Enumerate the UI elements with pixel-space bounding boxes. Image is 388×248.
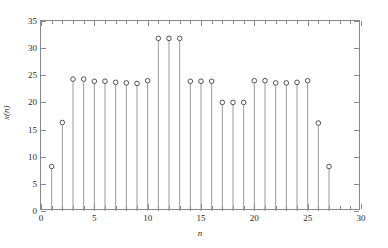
y-axis-tick-label: 30	[28, 43, 37, 53]
stem-point	[92, 79, 97, 211]
data-point-marker	[209, 79, 214, 84]
x-axis-tick-minor-top	[105, 21, 106, 24]
y-axis-tick-major-right	[354, 184, 359, 185]
stem-point	[124, 81, 129, 211]
data-point-marker	[113, 80, 118, 85]
data-point-marker	[231, 100, 236, 105]
stem-point	[273, 81, 278, 211]
data-point-marker	[135, 81, 140, 86]
x-axis-tick-major-top	[361, 21, 362, 26]
x-axis-tick-minor-top	[126, 21, 127, 24]
stem-point	[71, 77, 76, 211]
x-axis-tick-minor-top	[244, 21, 245, 24]
data-point-marker	[305, 78, 310, 83]
x-axis-tick-minor	[116, 206, 117, 209]
x-axis-tick-minor	[105, 206, 106, 209]
x-axis-tick-minor	[158, 206, 159, 209]
x-axis-tick-minor-top	[180, 21, 181, 24]
y-axis-tick-major-right	[354, 75, 359, 76]
x-axis-tick-minor-top	[84, 21, 85, 24]
y-axis-tick-major-right	[354, 211, 359, 212]
stem-point	[49, 164, 54, 211]
x-axis-tick-minor	[340, 206, 341, 209]
x-axis-tick-minor	[169, 206, 170, 209]
x-axis-tick-major	[254, 204, 255, 209]
stem-point	[113, 80, 118, 211]
data-point-marker	[188, 79, 193, 84]
data-point-marker	[220, 100, 225, 105]
x-axis-tick-minor-top	[52, 21, 53, 24]
x-axis-tick-minor	[222, 206, 223, 209]
stem-point	[209, 79, 214, 211]
stem-point	[252, 78, 257, 211]
stem-series-layer	[41, 21, 361, 211]
stem-point	[177, 36, 182, 211]
x-axis-tick-minor-top	[286, 21, 287, 24]
stem-point	[220, 100, 225, 211]
x-axis-tick-minor	[180, 206, 181, 209]
data-point-marker	[316, 121, 321, 126]
x-axis-tick-minor	[52, 206, 53, 209]
x-axis-tick-minor	[212, 206, 213, 209]
stem-point	[60, 120, 65, 211]
x-axis-tick-label: 25	[303, 213, 312, 223]
stem-point	[284, 81, 289, 211]
x-axis-tick-major	[94, 204, 95, 209]
x-axis-tick-minor	[73, 206, 74, 209]
plot-axes-box: 05101520253005101520253035	[40, 20, 360, 210]
x-axis-tick-minor-top	[318, 21, 319, 24]
data-point-marker	[81, 77, 86, 82]
y-axis-tick-major-right	[354, 102, 359, 103]
data-point-marker	[252, 78, 257, 83]
x-axis-tick-major-top	[94, 21, 95, 26]
x-axis-tick-major-top	[254, 21, 255, 26]
y-axis-tick-major	[41, 21, 46, 22]
x-axis-tick-major	[361, 204, 362, 209]
x-axis-tick-minor	[265, 206, 266, 209]
x-axis-tick-minor	[329, 206, 330, 209]
x-axis-tick-major-top	[201, 21, 202, 26]
stem-point	[263, 78, 268, 211]
y-axis-tick-major-right	[354, 48, 359, 49]
y-axis-tick-label: 10	[28, 152, 37, 162]
data-point-marker	[327, 164, 332, 169]
y-axis-tick-major-right	[354, 21, 359, 22]
stem-plot-figure: 05101520253005101520253035 n x(n)	[0, 0, 388, 248]
data-point-marker	[156, 36, 161, 41]
y-axis-tick-major	[41, 102, 46, 103]
y-axis-tick-label: 0	[33, 206, 38, 216]
x-axis-tick-label: 5	[92, 213, 97, 223]
x-axis-tick-minor-top	[297, 21, 298, 24]
stem-point	[188, 79, 193, 211]
x-axis-tick-major-top	[308, 21, 309, 26]
x-axis-tick-minor	[297, 206, 298, 209]
y-axis-tick-major-right	[354, 157, 359, 158]
data-point-marker	[273, 81, 278, 86]
x-axis-tick-label: 30	[357, 213, 366, 223]
x-axis-tick-label: 0	[39, 213, 44, 223]
y-axis-tick-major-right	[354, 130, 359, 131]
x-axis-tick-label: 10	[143, 213, 152, 223]
x-axis-tick-minor	[84, 206, 85, 209]
y-axis-title: x(n)	[1, 106, 11, 121]
x-axis-tick-minor-top	[350, 21, 351, 24]
data-point-marker	[124, 81, 129, 86]
stem-point	[327, 164, 332, 211]
x-axis-tick-major	[41, 204, 42, 209]
x-axis-tick-minor	[126, 206, 127, 209]
data-point-marker	[284, 81, 289, 86]
x-axis-tick-minor-top	[137, 21, 138, 24]
x-axis-tick-minor	[137, 206, 138, 209]
stem-point	[305, 78, 310, 211]
stem-point	[156, 36, 161, 211]
x-axis-tick-minor	[190, 206, 191, 209]
y-axis-tick-label: 35	[28, 16, 37, 26]
x-axis-tick-major	[308, 204, 309, 209]
data-point-marker	[199, 79, 204, 84]
x-axis-tick-minor-top	[190, 21, 191, 24]
data-point-marker	[241, 100, 246, 105]
x-axis-tick-major	[148, 204, 149, 209]
stem-point	[295, 80, 300, 211]
y-axis-tick-major	[41, 130, 46, 131]
data-point-marker	[145, 78, 150, 83]
